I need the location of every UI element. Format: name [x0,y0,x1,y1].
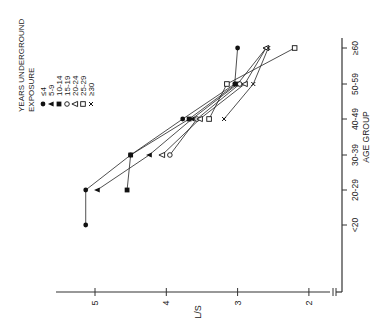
legend-title: EXPOSURE [27,68,36,112]
ls-tick-label: 3 [233,300,243,305]
series-markers-0 [83,46,240,228]
age-tick-label: 40-49 [350,108,360,130]
legend-entry-label: ≥30 [87,82,96,96]
series-markers-3 [168,82,242,158]
age-tick-label: 30-39 [350,144,360,166]
age-tick-label: ≥60 [350,41,360,55]
age-axis-title: AGE GROUP [361,111,371,163]
series-0 [86,48,238,225]
series-markers-4 [159,45,269,157]
rotated-line-chart: 2345L/S<2020-2930-3940-4950-59≥60AGE GRO… [0,0,380,333]
age-tick-label: 20-29 [350,179,360,201]
series-3 [170,84,240,155]
ls-axis-title: L/S [193,305,203,319]
ls-tick-label: 2 [304,300,314,305]
age-tick-label: 50-59 [350,73,360,95]
series-markers-5 [207,46,297,122]
legend: YEARS UNDERGROUNDEXPOSURE≤45-910-1415-19… [17,18,96,112]
ls-tick-label: 5 [90,300,100,305]
chart-container: 2345L/S<2020-2930-3940-4950-59≥60AGE GRO… [0,0,380,333]
age-tick-label: <20 [350,218,360,233]
series-5 [209,48,295,119]
legend-title: YEARS UNDERGROUND [17,18,26,112]
series-markers-2 [125,82,239,193]
series-4 [162,48,266,155]
ls-tick-label: 4 [161,300,171,305]
